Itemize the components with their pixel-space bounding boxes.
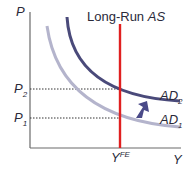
shift-arrow-icon	[136, 101, 149, 118]
y-axis-label: P	[16, 5, 25, 18]
ad1-label: AD1	[160, 113, 183, 130]
long-run-as-label: Long-Run AS	[87, 10, 165, 23]
p2-label: P2	[14, 82, 27, 99]
p1-label: P1	[14, 111, 27, 128]
yfe-label: YFE	[111, 151, 130, 164]
x-axis-label: Y	[173, 153, 182, 166]
ad2-label: AD2	[160, 89, 183, 106]
